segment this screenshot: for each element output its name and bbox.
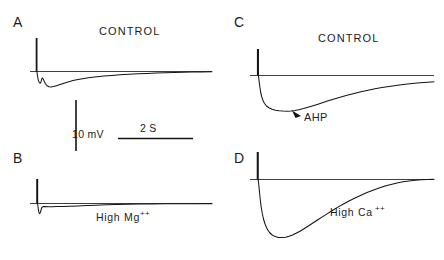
figure-svg: A CONTROL 10 mV 2 S B High Mg ++ bbox=[0, 0, 444, 260]
scale-bars: 10 mV 2 S bbox=[72, 100, 193, 151]
panel-c: C CONTROL AHP bbox=[234, 14, 434, 123]
panel-letter-d: D bbox=[234, 150, 245, 166]
panel-letter-a: A bbox=[13, 14, 23, 30]
ahp-arrow-icon bbox=[292, 111, 301, 119]
panel-a-trace bbox=[37, 72, 212, 87]
panel-a-condition-label: CONTROL bbox=[99, 25, 160, 37]
figure-canvas: A CONTROL 10 mV 2 S B High Mg ++ bbox=[0, 0, 444, 260]
panel-letter-b: B bbox=[13, 150, 23, 166]
panel-c-ahp-annotation: AHP bbox=[304, 111, 328, 123]
panel-c-stimulus-artifact bbox=[258, 50, 259, 76]
panel-a-stimulus-artifact bbox=[36, 39, 37, 72]
panel-letter-c: C bbox=[234, 14, 245, 30]
horizontal-scale-label: 2 S bbox=[140, 122, 157, 134]
panel-d-drug-label: High Ca bbox=[330, 206, 373, 218]
panel-a: A CONTROL bbox=[13, 14, 212, 87]
panel-b-drug-label: High Mg bbox=[96, 211, 140, 223]
panel-c-trace bbox=[258, 76, 434, 112]
panel-b: B High Mg ++ bbox=[13, 150, 212, 223]
panel-b-stimulus-artifact bbox=[37, 180, 38, 204]
panel-b-drug-superscript: ++ bbox=[140, 209, 150, 218]
panel-c-condition-label: CONTROL bbox=[318, 32, 379, 44]
panel-d: D High Ca ++ bbox=[234, 150, 434, 238]
vertical-scale-label: 10 mV bbox=[72, 128, 104, 140]
panel-d-stimulus-artifact bbox=[257, 153, 258, 180]
panel-d-drug-superscript: ++ bbox=[375, 204, 385, 213]
